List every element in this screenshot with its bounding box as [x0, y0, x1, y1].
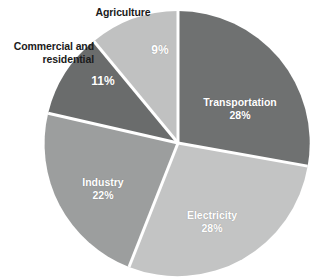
slice-label-transportation: Transportation 28% — [186, 83, 294, 135]
slice-label-industry: Industry 22% — [60, 163, 146, 215]
slice-label-transportation-name: Transportation — [203, 96, 277, 108]
label-commercial-and-residential: Commercial and residential — [2, 40, 94, 65]
slice-label-electricity-name: Electricity — [187, 209, 237, 221]
slice-label-agriculture-value: 9% — [136, 44, 184, 57]
slice-label-commercial-and-residential-value: 11% — [74, 75, 132, 88]
slice-label-electricity-value: 28% — [163, 222, 261, 235]
slice-label-electricity: Electricity 28% — [163, 196, 261, 248]
slice-label-industry-value: 22% — [60, 189, 146, 202]
pie-chart-figure: Agriculture Commercial and residential T… — [0, 0, 320, 278]
slice-label-transportation-value: 28% — [186, 109, 294, 122]
slice-label-industry-name: Industry — [82, 176, 123, 188]
label-agriculture: Agriculture — [84, 6, 162, 19]
